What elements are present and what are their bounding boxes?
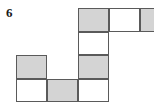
cell-r1c4 (109, 8, 140, 32)
cell-r2c3 (78, 32, 109, 56)
cell-r4c3 (78, 79, 109, 103)
cell-r1c5 (140, 8, 154, 32)
cell-r3c3 (78, 55, 109, 79)
cell-r1c3 (78, 8, 109, 32)
cell-r3c1 (16, 55, 47, 79)
cell-r4c1 (16, 79, 47, 103)
cell-r4c2 (47, 79, 78, 103)
figure-root: 6 (0, 0, 154, 106)
polyomino-grid (0, 0, 154, 106)
